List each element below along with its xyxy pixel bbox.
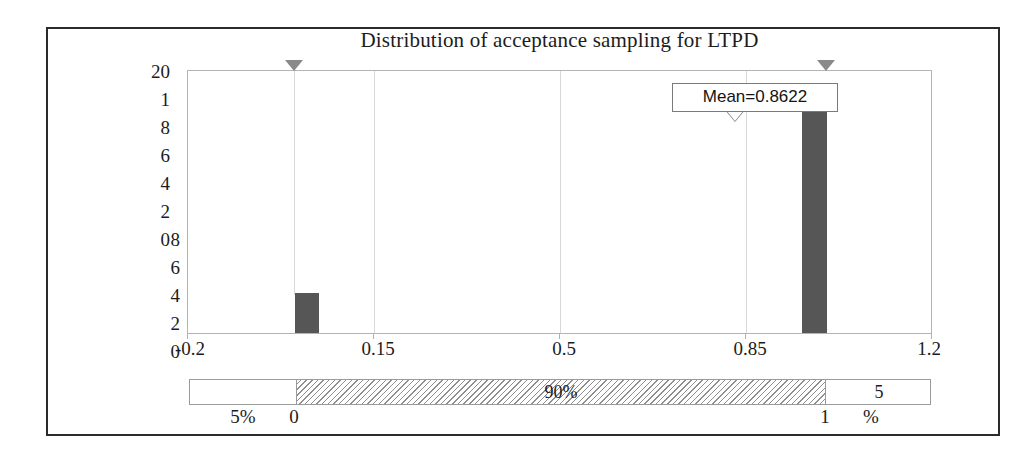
band-label-one: 1 — [820, 406, 830, 428]
percentage-segment-right: 5 — [826, 380, 932, 404]
percentage-segment-right-label: 5 — [875, 382, 884, 403]
page-title: Distribution of acceptance sampling for … — [187, 28, 932, 53]
y-tick-label-secondary-2: 4 — [171, 286, 181, 305]
gridline-x-0.5 — [560, 71, 561, 333]
x-tick-label-3: 0.85 — [733, 338, 766, 360]
y-tick-label-secondary-3: 2 — [171, 314, 181, 333]
band-label-right: % — [863, 406, 879, 428]
lower-spec-line — [294, 71, 295, 295]
y-tick-label-secondary-1: 6 — [171, 258, 181, 277]
percentage-segment-left — [190, 380, 296, 404]
histogram-bar-1 — [802, 102, 827, 333]
histogram-bar-0 — [295, 293, 319, 333]
percentage-segment-center: 90% — [296, 380, 826, 404]
upper-spec-marker — [817, 60, 835, 71]
y-tick-label-secondary-0: 8 — [171, 230, 181, 249]
percentage-band: 90% 5 — [189, 379, 931, 405]
x-tick-label-4: 1.2 — [917, 338, 941, 360]
band-label-left: 5% — [230, 406, 255, 428]
lower-spec-marker — [285, 60, 303, 71]
band-label-zero: 0 — [289, 406, 299, 428]
gridline-x-0.15 — [374, 71, 375, 333]
x-tick-label-1: 0.15 — [361, 338, 394, 360]
percentage-segment-center-label: 90% — [545, 382, 578, 403]
x-tick-label-2: 0.5 — [552, 338, 576, 360]
mean-callout-label: Mean=0.8622 — [703, 87, 807, 106]
figure-canvas: Distribution of acceptance sampling for … — [0, 0, 1034, 456]
x-tick-label-0: -0.2 — [175, 338, 205, 360]
mean-callout: Mean=0.8622 — [672, 83, 838, 112]
y-axis-labels-secondary: 86420 — [145, 62, 180, 342]
